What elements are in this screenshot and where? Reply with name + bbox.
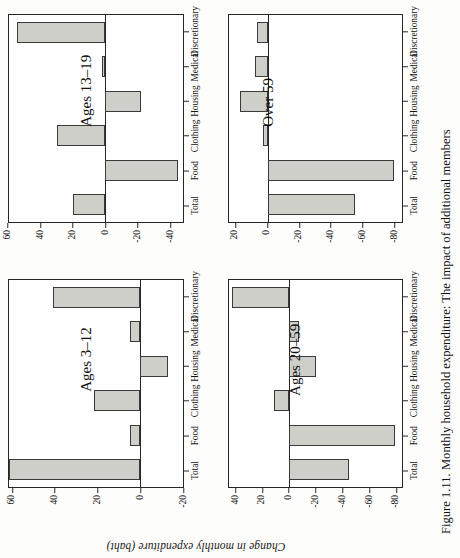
y-axis: 6040200-20-40 bbox=[8, 223, 184, 253]
y-axis-tick: 60 bbox=[8, 488, 18, 505]
x-axis-tick-mark bbox=[184, 101, 189, 102]
y-axis-tick-label: 20 bbox=[93, 495, 103, 505]
bar bbox=[17, 22, 105, 43]
bar bbox=[232, 287, 289, 308]
y-axis-tick-mark bbox=[342, 488, 343, 493]
y-axis-tick-label: -60 bbox=[358, 230, 368, 243]
bar bbox=[73, 194, 105, 215]
x-axis-tick-mark bbox=[184, 400, 189, 401]
x-axis-tick: Housing bbox=[184, 85, 200, 117]
y-axis-tick: -40 bbox=[326, 223, 336, 243]
x-axis-tick: Food bbox=[184, 426, 200, 445]
y-axis-tick: -20 bbox=[295, 223, 305, 243]
x-axis-tick: Discretionary bbox=[184, 271, 200, 322]
y-axis-tick-label: 0 bbox=[136, 495, 146, 500]
y-axis-tick-label: 20 bbox=[68, 230, 78, 240]
x-axis-tick: Housing bbox=[403, 350, 419, 382]
x-axis-tick-label: Total bbox=[410, 196, 419, 215]
x-axis-tick-mark bbox=[184, 205, 189, 206]
x-axis-tick-mark bbox=[184, 296, 189, 297]
y-axis-tick: -20 bbox=[133, 223, 143, 243]
x-axis-tick: Food bbox=[403, 161, 419, 180]
y-axis-tick-label: 60 bbox=[8, 495, 18, 505]
x-axis-tick-label: Food bbox=[191, 161, 200, 180]
y-axis-tick-label: 0 bbox=[284, 495, 294, 500]
y-axis-tick: 0 bbox=[263, 223, 273, 235]
x-axis-tick-label: Food bbox=[410, 161, 419, 180]
y-axis-tick-mark bbox=[235, 223, 236, 228]
x-axis-tick-mark bbox=[403, 296, 408, 297]
x-axis-tick-mark bbox=[184, 366, 189, 367]
panel-ages-3-12: 6040200-20Ages 3–12TotalFoodClothingHous… bbox=[8, 279, 214, 518]
x-axis-tick-label: Clothing bbox=[410, 385, 419, 418]
y-axis-tick: 0 bbox=[101, 223, 111, 235]
plot-row: 6040200-20Ages 3–12 bbox=[8, 279, 184, 518]
y-axis: 200-20-40-60-80 bbox=[228, 223, 404, 253]
y-axis-tick-label: 40 bbox=[231, 495, 241, 505]
x-axis-tick-mark bbox=[403, 400, 408, 401]
y-axis: 6040200-20 bbox=[8, 488, 184, 518]
x-axis-tick: Food bbox=[403, 426, 419, 445]
y-axis-tick-label: 40 bbox=[50, 495, 60, 505]
y-axis-tick-label: 20 bbox=[258, 495, 268, 505]
x-axis: TotalFoodClothingHousingMedicalDiscretio… bbox=[184, 14, 214, 223]
y-axis-tick-label: -80 bbox=[390, 230, 400, 243]
y-axis-tick: 40 bbox=[36, 223, 46, 240]
plot-row: 200-20-40-60-80Over 59 bbox=[228, 14, 404, 253]
x-axis-tick-label: Total bbox=[410, 461, 419, 480]
x-axis-tick-label: Discretionary bbox=[191, 271, 200, 322]
x-axis-tick-mark bbox=[184, 170, 189, 171]
y-axis-tick: 40 bbox=[50, 488, 60, 505]
y-axis-tick-mark bbox=[289, 488, 290, 493]
y-axis-tick-mark bbox=[363, 223, 364, 228]
bar bbox=[57, 125, 105, 146]
figure: Change in monthly expenditure (baht) 604… bbox=[0, 0, 460, 558]
y-axis-tick: 20 bbox=[68, 223, 78, 240]
y-axis-tick-label: -40 bbox=[326, 230, 336, 243]
y-axis-tick-label: 0 bbox=[263, 230, 273, 235]
x-axis-tick-mark bbox=[184, 31, 189, 32]
y-axis-tick-mark bbox=[235, 488, 236, 493]
x-axis: TotalFoodClothingHousingMedicalDiscretio… bbox=[403, 14, 433, 223]
x-axis-tick-mark bbox=[403, 66, 408, 67]
y-axis-label-text: Change in monthly expenditure (baht) bbox=[107, 541, 286, 553]
y-axis-tick-label: -20 bbox=[311, 495, 321, 508]
y-axis-tick: -80 bbox=[392, 488, 402, 508]
x-axis-tick-mark bbox=[403, 101, 408, 102]
x-axis-tick-label: Clothing bbox=[191, 120, 200, 153]
x-axis-tick-label: Food bbox=[191, 426, 200, 445]
y-axis-tick: 60 bbox=[3, 223, 13, 240]
x-axis-tick-label: Housing bbox=[410, 85, 419, 117]
y-axis-tick-label: -40 bbox=[166, 230, 176, 243]
zero-line bbox=[140, 280, 141, 487]
y-axis-tick: -20 bbox=[311, 488, 321, 508]
x-axis-tick: Housing bbox=[403, 85, 419, 117]
y-axis-tick: -40 bbox=[338, 488, 348, 508]
y-axis-tick: -60 bbox=[358, 223, 368, 243]
y-axis-tick-mark bbox=[8, 223, 9, 228]
plot-area: Ages 13–19 bbox=[8, 14, 184, 223]
y-axis-tick-mark bbox=[170, 223, 171, 228]
panel-ages-13-19: 6040200-20-40Ages 13–19TotalFoodClothing… bbox=[8, 14, 214, 253]
y-axis-tick-label: -20 bbox=[179, 495, 189, 508]
x-axis-tick-label: Discretionary bbox=[410, 271, 419, 322]
plot-area: Ages 20–59 bbox=[228, 279, 404, 488]
panel-over-59: 200-20-40-60-80Over 59TotalFoodClothingH… bbox=[228, 14, 434, 253]
figure-page: Change in monthly expenditure (baht) 604… bbox=[0, 0, 460, 558]
x-axis-tick: Discretionary bbox=[184, 6, 200, 57]
y-axis-tick-label: -60 bbox=[365, 495, 375, 508]
x-axis-tick: Food bbox=[184, 161, 200, 180]
plot-area: Ages 3–12 bbox=[8, 279, 184, 488]
x-axis-tick-label: Total bbox=[191, 196, 200, 215]
x-axis-tick-mark bbox=[184, 470, 189, 471]
y-axis-tick-label: -80 bbox=[392, 495, 402, 508]
x-axis-tick: Discretionary bbox=[403, 271, 419, 322]
bar bbox=[240, 91, 268, 112]
x-axis-tick-label: Housing bbox=[191, 350, 200, 382]
x-axis-tick-mark bbox=[403, 435, 408, 436]
x-axis-tick: Housing bbox=[184, 350, 200, 382]
bar bbox=[102, 56, 105, 77]
y-axis-tick-label: 0 bbox=[101, 230, 111, 235]
y-axis-tick: -60 bbox=[365, 488, 375, 508]
figure-caption: Figure 1.11. Monthly household expenditu… bbox=[433, 10, 456, 548]
